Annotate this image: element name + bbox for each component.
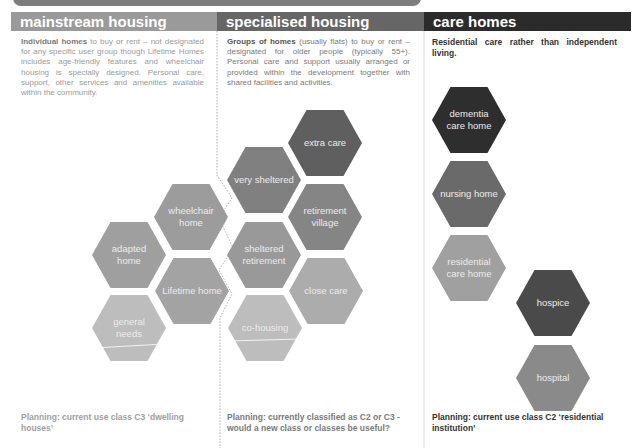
intro-specialised-bold: Groups of homes xyxy=(227,37,296,46)
header-care-homes: care homes xyxy=(424,12,631,31)
hex-label: Lifetime home xyxy=(162,285,222,297)
hex-label: wheelchair home xyxy=(161,205,221,229)
hex-label: very sheltered xyxy=(234,174,294,186)
planning-specialised: Planning: currently classified as C2 or … xyxy=(227,412,417,434)
hex-label: dementia care home xyxy=(439,108,499,132)
intro-mainstream-bold: Individual homes xyxy=(21,37,87,46)
hex-label: sheltered retirement xyxy=(234,243,294,267)
intro-mainstream: Individual homes to buy or rent – not de… xyxy=(21,37,204,98)
divider-mainstream-specialised xyxy=(217,31,233,448)
planning-mainstream: Planning: current use class C3 ‘dwelling… xyxy=(21,412,211,434)
intro-care-bold: Residential care rather than independent… xyxy=(432,37,617,58)
hex-label: extra care xyxy=(295,137,355,149)
hex-label: adapted home xyxy=(99,243,159,267)
hex-label: residential care home xyxy=(439,256,499,280)
hex-label: general needs xyxy=(99,316,159,340)
hex-label: close care xyxy=(296,285,356,297)
hex-label: co-housing xyxy=(235,322,295,334)
hex-label: retirement village xyxy=(295,205,355,229)
intro-care-homes: Residential care rather than independent… xyxy=(432,37,617,59)
intro-specialised: Groups of homes (usually flats) to buy o… xyxy=(227,37,410,88)
header-mainstream-housing: mainstream housing xyxy=(11,12,217,31)
hex-label: nursing home xyxy=(439,188,499,200)
header-specialised-housing: specialised housing xyxy=(217,12,424,31)
hex-label: hospital xyxy=(523,372,583,384)
intro-mainstream-text: to buy or rent – not designated for any … xyxy=(21,37,204,97)
planning-care-homes: Planning: current use class C2 ‘resident… xyxy=(432,412,627,434)
hex-label: hospice xyxy=(523,297,583,309)
